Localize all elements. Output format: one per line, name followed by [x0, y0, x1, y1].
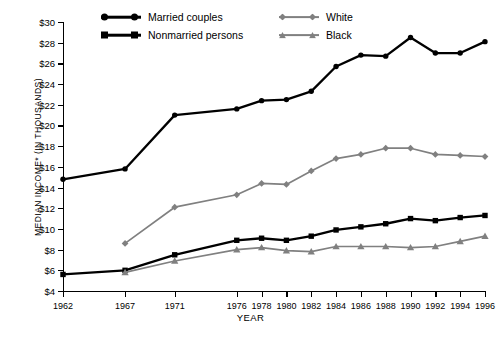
x-tick [311, 291, 312, 297]
data-point [234, 238, 239, 243]
x-tick [125, 291, 126, 297]
legend-item-label: Nonmarried persons [148, 29, 243, 41]
triangle-marker-icon [277, 28, 321, 42]
data-point [283, 181, 290, 188]
square-marker-icon [99, 28, 143, 42]
data-point [382, 145, 389, 152]
y-axis-title: MEDIAN INCOME* (IN THOUSANDS) [33, 37, 43, 277]
data-point [259, 236, 264, 241]
legend-column: Married couplesNonmarried persons [99, 8, 243, 44]
data-point [457, 152, 464, 159]
x-axis-title: YEAR [0, 312, 501, 323]
x-tick [286, 291, 287, 297]
x-tick-label: 1982 [301, 301, 321, 311]
data-point [482, 213, 487, 218]
x-tick-label: 1978 [252, 301, 272, 311]
data-point [457, 50, 462, 55]
diamond-marker-icon [277, 10, 321, 24]
y-tick-label: $26 [39, 58, 55, 69]
data-point [172, 252, 177, 257]
data-point [432, 151, 439, 158]
chart-legend: Married couplesNonmarried personsWhiteBl… [99, 8, 409, 44]
y-tick-label: $6 [44, 265, 55, 276]
data-point [60, 177, 65, 182]
x-tick-label: 1986 [351, 301, 371, 311]
y-tick-label: $4 [44, 286, 55, 297]
series-married-couples [60, 35, 487, 182]
legend-item-label: Married couples [148, 11, 223, 23]
y-tick-label: $28 [39, 37, 55, 48]
x-tick-label: 1980 [276, 301, 296, 311]
x-tick-label: 1971 [165, 301, 185, 311]
data-point [234, 106, 239, 111]
y-tick-label: $22 [39, 99, 55, 110]
data-point [233, 191, 240, 198]
x-tick [386, 291, 387, 297]
data-point [358, 52, 363, 57]
y-tick-label: $24 [39, 79, 55, 90]
legend-item[interactable]: Black [277, 26, 353, 44]
x-tick-label: 1992 [425, 301, 445, 311]
x-tick-label: 1962 [53, 301, 73, 311]
data-point [408, 216, 413, 221]
x-tick [435, 291, 436, 297]
data-point [407, 145, 414, 152]
y-tick-label: $12 [39, 203, 55, 214]
x-tick [262, 291, 263, 297]
data-point [284, 238, 289, 243]
data-point [481, 233, 488, 239]
data-point [259, 98, 264, 103]
x-tick [485, 291, 486, 297]
data-point [309, 233, 314, 238]
data-point [172, 112, 177, 117]
circle-marker-icon [99, 10, 143, 24]
data-point [333, 227, 338, 232]
x-tick-label: 1994 [450, 301, 470, 311]
legend-item-label: White [326, 11, 353, 23]
data-point [358, 151, 365, 158]
y-tick-label: $30 [39, 17, 55, 28]
y-tick-label: $14 [39, 182, 55, 193]
x-tick-label: 1990 [401, 301, 421, 311]
x-tick [411, 291, 412, 297]
legend-item[interactable]: Nonmarried persons [99, 26, 243, 44]
plot-area: $4$6$8$10$12$14$16$18$20$22$24$26$28$30 … [63, 22, 485, 291]
data-point [457, 215, 462, 220]
data-point [284, 97, 289, 102]
y-tick-label: $10 [39, 223, 55, 234]
y-tick-label: $16 [39, 161, 55, 172]
x-tick [460, 291, 461, 297]
x-axis-line [63, 291, 485, 292]
data-point [60, 272, 65, 277]
data-point [482, 39, 487, 44]
x-tick-label: 1967 [115, 301, 135, 311]
legend-item[interactable]: White [277, 8, 353, 26]
x-tick [336, 291, 337, 297]
legend-item[interactable]: Married couples [99, 8, 243, 26]
x-tick-label: 1984 [326, 301, 346, 311]
data-point [258, 180, 265, 187]
y-tick-label: $8 [44, 244, 55, 255]
legend-item-label: Black [326, 29, 352, 41]
y-tick-label: $18 [39, 141, 55, 152]
data-point [383, 53, 388, 58]
data-point [122, 166, 127, 171]
series-line [125, 148, 485, 243]
data-point [433, 218, 438, 223]
x-tick [63, 291, 64, 297]
series-layer [63, 22, 485, 291]
series-line [63, 38, 485, 180]
y-tick-label: $20 [39, 120, 55, 131]
data-point [333, 64, 338, 69]
x-tick [361, 291, 362, 297]
series-white [122, 145, 489, 247]
legend-column: WhiteBlack [277, 8, 353, 44]
data-point [309, 89, 314, 94]
data-point [383, 221, 388, 226]
x-tick-label: 1976 [227, 301, 247, 311]
data-point [358, 224, 363, 229]
x-tick [237, 291, 238, 297]
data-point [482, 153, 489, 160]
x-tick-label: 1996 [475, 301, 495, 311]
chart-figure: MEDIAN INCOME* (IN THOUSANDS) $4$6$8$10$… [0, 0, 501, 352]
